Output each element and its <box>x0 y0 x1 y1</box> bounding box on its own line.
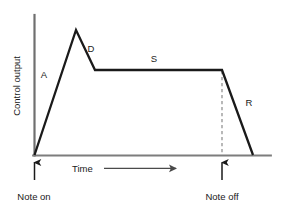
segment-label-release: R <box>246 97 253 108</box>
segment-label-decay: D <box>88 43 95 54</box>
x-axis-label: Time <box>72 163 93 174</box>
segment-label-attack: A <box>41 69 48 80</box>
adsr-envelope-figure: A D S R Control output Time Note on Note… <box>0 0 281 207</box>
note-off-label: Note off <box>205 191 238 202</box>
adsr-envelope-curve <box>35 30 254 155</box>
y-axis-label: Control output <box>11 56 22 116</box>
figure-canvas: A D S R Control output Time Note on Note… <box>0 0 281 207</box>
segment-label-sustain: S <box>151 53 157 64</box>
note-on-label: Note on <box>17 191 50 202</box>
